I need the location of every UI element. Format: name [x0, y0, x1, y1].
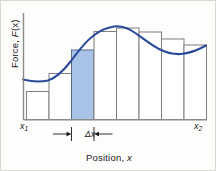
y-axis-label-symbol: F	[9, 31, 20, 37]
x-axis-label: Position, x	[1, 153, 216, 163]
bar-1	[27, 92, 50, 120]
plot-canvas	[1, 1, 216, 171]
x1-tick-label: x1	[20, 122, 28, 132]
x-axis-label-prefix: Position,	[86, 152, 127, 163]
force-position-figure: Force, F(x) Position, x x1 x2 Δx	[0, 0, 216, 171]
bar-4	[94, 32, 117, 120]
y-axis-label-prefix: Force,	[9, 37, 20, 68]
delta-x-left-arrowhead	[67, 132, 72, 136]
x-axis-label-symbol: x	[127, 152, 132, 163]
riemann-bars	[27, 28, 207, 120]
y-axis-label: Force, F(x)	[10, 6, 20, 82]
bar-2	[49, 74, 72, 120]
y-axis-label-arg: (x)	[9, 19, 20, 31]
bar-8	[184, 45, 207, 120]
bar-6	[139, 32, 162, 120]
x1-subscript: 1	[25, 125, 29, 132]
bar-5	[117, 28, 140, 120]
x2-subscript: 2	[199, 125, 203, 132]
x2-tick-label: x2	[194, 122, 202, 132]
delta-x-label: Δx	[78, 130, 102, 139]
bar-3-highlight	[72, 50, 95, 120]
